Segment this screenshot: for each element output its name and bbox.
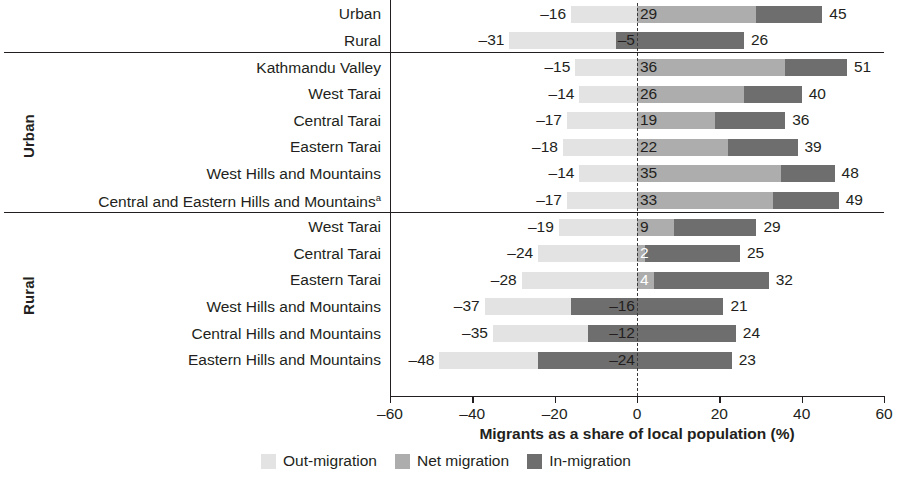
value-label-in: 24 <box>743 325 760 341</box>
value-label-out: –14 <box>0 165 574 181</box>
bar-in-migration <box>616 32 744 49</box>
bar-out-migration <box>563 139 637 156</box>
bar-net-migration <box>637 59 785 76</box>
chart-legend: Out-migrationNet migrationIn-migration <box>0 452 892 470</box>
plot-left-spine <box>390 0 391 396</box>
value-label-out: –16 <box>0 6 566 22</box>
value-label-net: 2 <box>640 245 649 261</box>
legend-swatch-net-icon <box>395 454 410 469</box>
bar-in-migration <box>756 6 822 23</box>
value-label-out: –15 <box>0 59 570 75</box>
value-label-in: 48 <box>842 165 859 181</box>
bar-out-migration <box>571 6 637 23</box>
value-label-in: 40 <box>809 86 826 102</box>
value-label-in: 39 <box>805 139 822 155</box>
x-axis-tick <box>719 396 720 403</box>
bar-in-migration <box>785 59 847 76</box>
group-separator <box>4 52 884 53</box>
value-label-net: 22 <box>640 139 657 155</box>
value-label-in: 25 <box>747 245 764 261</box>
value-label-net: 9 <box>640 219 649 235</box>
bar-in-migration <box>674 219 756 236</box>
value-label-net: –24 <box>0 352 635 368</box>
x-axis-tick-label: 40 <box>772 405 832 423</box>
value-label-out: –17 <box>0 192 562 208</box>
bar-net-migration <box>637 192 773 209</box>
bar-in-migration <box>654 272 769 289</box>
value-label-net: 33 <box>640 192 657 208</box>
bar-out-migration <box>522 272 637 289</box>
value-label-out: –17 <box>0 112 562 128</box>
bar-in-migration <box>728 139 798 156</box>
x-axis-tick <box>884 396 885 403</box>
value-label-in: 36 <box>792 112 809 128</box>
bar-out-migration <box>575 59 637 76</box>
value-label-net: 26 <box>640 86 657 102</box>
legend-swatch-in-icon <box>527 454 542 469</box>
value-label-in: 51 <box>854 59 871 75</box>
value-label-net: –12 <box>0 325 635 341</box>
bar-out-migration <box>567 192 637 209</box>
legend-label: Out-migration <box>283 452 377 470</box>
bar-out-migration <box>538 245 637 262</box>
group-axis-label: Rural <box>20 276 37 315</box>
value-label-net: –16 <box>0 298 635 314</box>
legend-item-net[interactable]: Net migration <box>395 452 509 470</box>
bar-out-migration <box>567 112 637 129</box>
value-label-in: 23 <box>739 352 756 368</box>
x-axis-tick <box>637 396 638 403</box>
x-axis-tick-label: –20 <box>525 405 585 423</box>
group-axis-label: Urban <box>20 114 37 158</box>
value-label-in: 21 <box>731 298 748 314</box>
value-label-net: 35 <box>640 165 657 181</box>
x-axis-tick-label: 60 <box>854 405 897 423</box>
bar-in-migration <box>645 245 740 262</box>
legend-swatch-out-icon <box>261 454 276 469</box>
bar-in-migration <box>773 192 839 209</box>
value-label-out: –28 <box>0 272 517 288</box>
x-axis-title: Migrants as a share of local population … <box>390 425 884 443</box>
value-label-net: 4 <box>640 272 649 288</box>
bar-in-migration <box>715 112 785 129</box>
legend-label: Net migration <box>417 452 509 470</box>
value-label-net: 29 <box>640 6 657 22</box>
value-label-out: –14 <box>0 86 574 102</box>
value-label-in: 29 <box>763 219 780 235</box>
value-label-in: 26 <box>751 32 768 48</box>
x-axis-tick-label: 20 <box>689 405 749 423</box>
x-axis-tick-label: –40 <box>442 405 502 423</box>
legend-label: In-migration <box>549 452 631 470</box>
value-label-in: 32 <box>776 272 793 288</box>
value-label-out: –19 <box>0 219 554 235</box>
x-axis-tick <box>390 396 391 403</box>
x-axis-tick-label: 0 <box>607 405 667 423</box>
zero-reference-line <box>637 3 638 396</box>
bar-in-migration <box>744 86 802 103</box>
value-label-net: 36 <box>640 59 657 75</box>
bar-out-migration <box>559 219 637 236</box>
x-axis-tick <box>555 396 556 403</box>
bar-net-migration <box>637 165 781 182</box>
group-separator <box>4 212 884 213</box>
bar-in-migration <box>781 165 835 182</box>
value-label-out: –24 <box>0 245 533 261</box>
bar-out-migration <box>579 86 637 103</box>
legend-item-in[interactable]: In-migration <box>527 452 631 470</box>
value-label-net: 19 <box>640 112 657 128</box>
x-axis-tick <box>472 396 473 403</box>
x-axis-tick-label: –60 <box>360 405 420 423</box>
value-label-in: 45 <box>829 6 846 22</box>
legend-item-out[interactable]: Out-migration <box>261 452 377 470</box>
bar-out-migration <box>579 165 637 182</box>
x-axis-tick <box>802 396 803 403</box>
value-label-net: –5 <box>0 32 635 48</box>
value-label-in: 49 <box>846 192 863 208</box>
value-label-out: –18 <box>0 139 558 155</box>
